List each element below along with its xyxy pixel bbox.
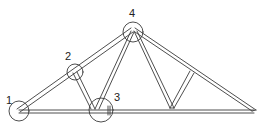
joint-1-label: 1 [6, 95, 12, 106]
web-2-3 [73, 72, 95, 109]
web-v-right [170, 71, 194, 108]
truss-diagram: 1 2 3 4 [0, 0, 264, 130]
joint-3-label: 3 [114, 92, 120, 103]
joint-2-label: 2 [65, 51, 71, 62]
web-4-v [134, 31, 174, 108]
bottom-chord [19, 110, 254, 113]
joint-4-label: 4 [129, 8, 135, 19]
right-top-chord [135, 28, 256, 111]
truss-drawing [0, 0, 264, 130]
